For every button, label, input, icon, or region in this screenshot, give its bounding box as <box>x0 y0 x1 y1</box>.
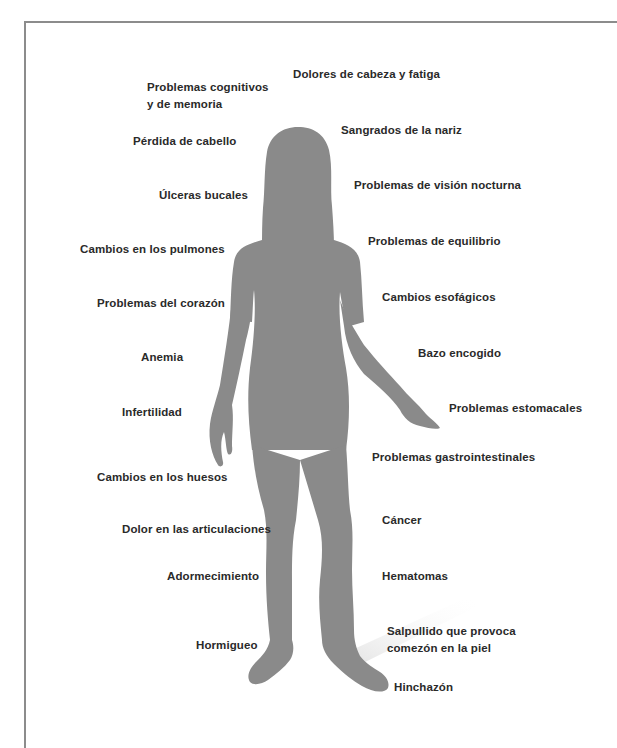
head-hair <box>262 127 334 248</box>
label-line: Problemas de visión nocturna <box>354 179 521 191</box>
label-line: Hinchazón <box>394 681 453 693</box>
label-line: Problemas estomacales <box>449 402 582 414</box>
label-night-vision: Problemas de visión nocturna <box>354 177 521 194</box>
label-line: Problemas cognitivos <box>147 79 269 96</box>
left-arm <box>209 300 252 466</box>
label-itchy-rash: Salpullido que provoca comezón en la pie… <box>387 623 516 657</box>
label-nosebleeds: Sangrados de la nariz <box>341 122 462 139</box>
label-lung-changes: Cambios en los pulmones <box>80 241 225 258</box>
label-line: Infertilidad <box>122 406 182 418</box>
label-heart-problems: Problemas del corazón <box>97 295 225 312</box>
label-line: Cambios esofágicos <box>382 291 496 303</box>
body-silhouette <box>0 0 617 748</box>
label-line: Salpullido que provoca <box>387 623 516 640</box>
label-line: Problemas del corazón <box>97 297 225 309</box>
label-shrunken-spleen: Bazo encogido <box>418 345 501 362</box>
torso <box>230 240 364 450</box>
label-line: Adormecimiento <box>167 570 259 582</box>
label-gastrointestinal-problems: Problemas gastrointestinales <box>372 449 535 466</box>
label-line: Cambios en los pulmones <box>80 243 225 255</box>
label-line: Problemas de equilibrio <box>368 235 501 247</box>
label-line: Pérdida de cabello <box>133 135 236 147</box>
label-infertility: Infertilidad <box>122 404 182 421</box>
label-line: Dolores de cabeza y fatiga <box>293 68 440 80</box>
label-anemia: Anemia <box>141 349 183 366</box>
label-line: comezón en la piel <box>387 640 516 657</box>
label-cancer: Cáncer <box>382 512 422 529</box>
label-stomach-problems: Problemas estomacales <box>449 400 582 417</box>
label-balance-problems: Problemas de equilibrio <box>368 233 501 250</box>
label-numbness: Adormecimiento <box>167 568 259 585</box>
label-hair-loss: Pérdida de cabello <box>133 133 236 150</box>
label-line: Bazo encogido <box>418 347 501 359</box>
label-mouth-ulcers: Úlceras bucales <box>159 187 248 204</box>
label-line: Problemas gastrointestinales <box>372 451 535 463</box>
label-line: y de memoria <box>147 96 269 113</box>
label-bone-changes: Cambios en los huesos <box>97 469 228 486</box>
label-bruising: Hematomas <box>382 568 448 585</box>
label-line: Dolor en las articulaciones <box>122 523 271 535</box>
label-line: Hematomas <box>382 570 448 582</box>
label-line: Úlceras bucales <box>159 189 248 201</box>
label-joint-pain: Dolor en las articulaciones <box>122 521 271 538</box>
label-swelling: Hinchazón <box>394 679 453 696</box>
label-headache-fatigue: Dolores de cabeza y fatiga <box>293 66 440 83</box>
label-tingling: Hormigueo <box>196 637 258 654</box>
label-line: Cáncer <box>382 514 422 526</box>
label-line: Cambios en los huesos <box>97 471 228 483</box>
label-esophageal-changes: Cambios esofágicos <box>382 289 496 306</box>
label-line: Hormigueo <box>196 639 258 651</box>
label-line: Anemia <box>141 351 183 363</box>
label-line: Sangrados de la nariz <box>341 124 462 136</box>
label-cognitive-memory: Problemas cognitivos y de memoria <box>147 79 269 113</box>
